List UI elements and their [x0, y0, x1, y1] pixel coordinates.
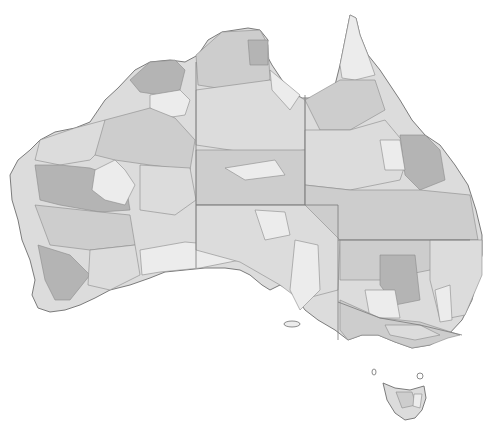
king-island — [372, 369, 376, 375]
flinders-island — [417, 373, 423, 379]
region-qld-cape-york — [340, 15, 375, 80]
region-wa-north-kimberley — [130, 60, 185, 95]
australia-map — [0, 0, 491, 426]
region-nt-arnhem-dark — [248, 40, 268, 65]
kangaroo-island — [284, 321, 300, 327]
